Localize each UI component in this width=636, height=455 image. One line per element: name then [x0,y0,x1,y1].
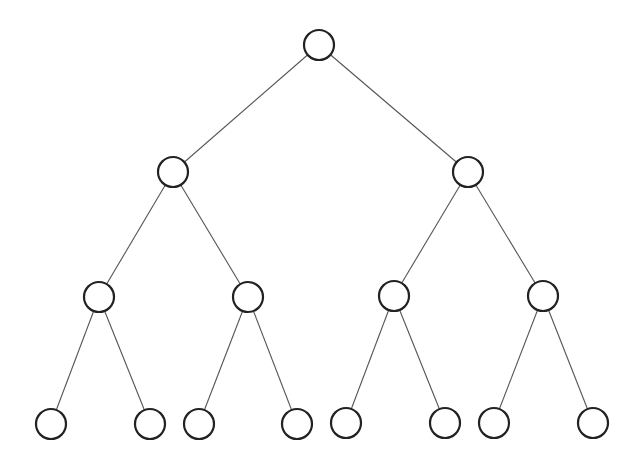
edge-n2-n5 [394,172,468,296]
edge-n1-n4 [173,172,248,297]
tree-node-n7 [36,409,66,439]
tree-node-n8 [135,409,165,439]
edge-n0-n2 [319,45,468,172]
tree-svg [0,0,636,455]
tree-node-n4 [233,282,263,312]
tree-node-n2 [453,157,483,187]
tree-node-n11 [331,408,361,438]
edge-n3-n8 [99,297,150,424]
tree-node-n6 [528,281,558,311]
edge-n6-n13 [494,296,543,423]
tree-node-n0 [304,30,334,60]
tree-node-n12 [430,408,460,438]
edge-n4-n9 [199,297,248,424]
tree-node-n3 [84,282,114,312]
edge-n2-n6 [468,172,543,296]
tree-node-n10 [282,409,312,439]
tree-diagram [0,0,636,455]
edge-n4-n10 [248,297,297,424]
edge-n1-n3 [99,172,173,297]
edge-n3-n7 [51,297,99,424]
tree-node-n1 [158,157,188,187]
edges-group [51,45,593,424]
tree-node-n13 [479,408,509,438]
edge-n5-n12 [394,296,445,423]
edge-n6-n14 [543,296,593,423]
nodes-group [36,30,608,439]
tree-node-n9 [184,409,214,439]
tree-node-n14 [578,408,608,438]
edge-n5-n11 [346,296,394,423]
tree-node-n5 [379,281,409,311]
edge-n0-n1 [173,45,319,172]
